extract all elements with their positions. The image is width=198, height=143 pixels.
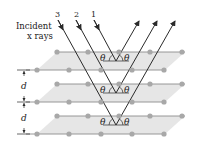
theta-label-3a: θ	[100, 117, 106, 127]
incident-label-line2: x rays	[27, 31, 53, 41]
ray-label-2: 2	[74, 10, 79, 19]
theta-label-1a: θ	[100, 53, 106, 63]
spacing-label-d2: d	[21, 113, 27, 123]
spacing-label-d1: d	[21, 81, 27, 91]
ray-label-1: 1	[91, 10, 96, 19]
incident-ray-3	[58, 20, 116, 125]
reflected-ray-3	[116, 21, 175, 125]
ray-label-3: 3	[55, 10, 60, 19]
diagram-canvas: θ θ θ θ θ θ 3 2 1 Incident x rays d d	[0, 0, 198, 143]
spacing-markers	[17, 70, 30, 134]
bragg-diagram: θ θ θ θ θ θ 3 2 1 Incident x rays d d	[0, 0, 198, 143]
theta-label-2a: θ	[100, 85, 106, 95]
theta-label-3b: θ	[124, 117, 130, 127]
theta-label-1b: θ	[124, 53, 130, 63]
theta-label-2b: θ	[124, 85, 130, 95]
x-rays	[58, 20, 175, 125]
incident-label: Incident	[16, 21, 52, 31]
